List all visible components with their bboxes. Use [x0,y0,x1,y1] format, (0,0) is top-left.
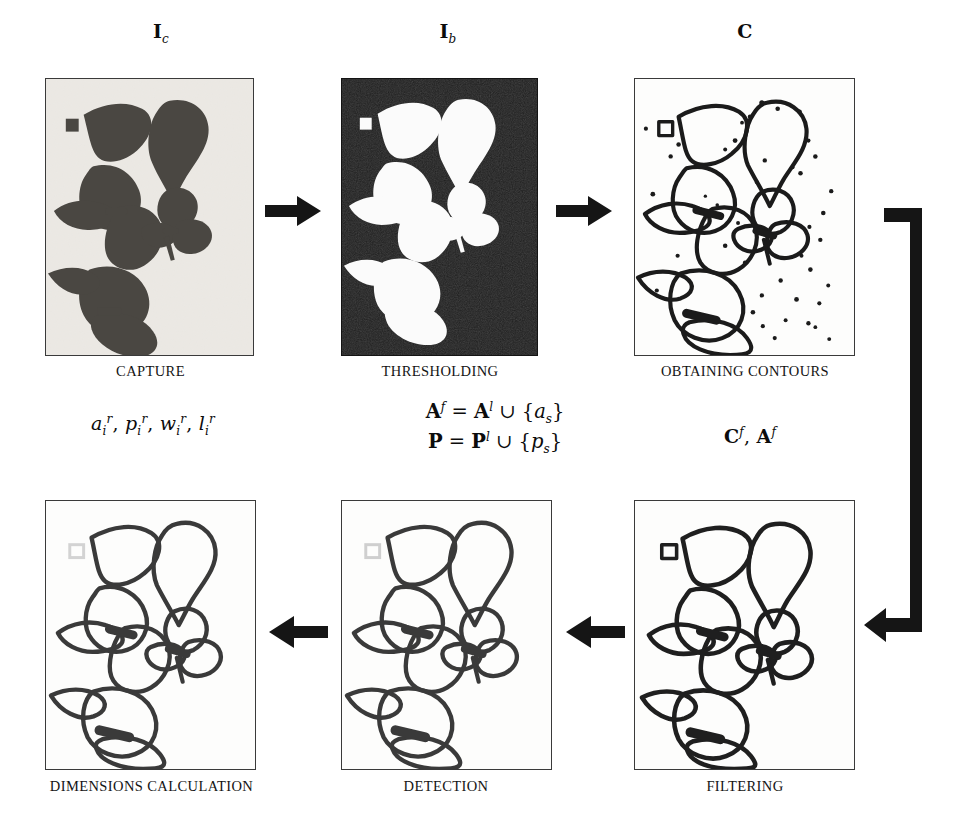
caption-thresholding: THRESHOLDING [330,363,550,380]
caption-filtering: FILTERING [634,778,856,795]
equation-perimeter: P = Pl ∪ {ps} [345,428,645,458]
arrow-filtering-to-detection [563,612,627,652]
caption-capture: CAPTURE [48,363,253,380]
symbol-contours: C [652,20,838,46]
panel-dimensions-calculation [45,500,256,770]
arrow-detection-to-dimensions [266,612,330,652]
caption-detection: DETECTION [336,778,556,795]
symbol-capture: Ic [68,20,254,46]
detection-image [342,501,551,769]
dimensions-symbols-text: air, pir, wir, lir [91,412,215,434]
panel-capture [45,78,254,356]
symbol-capture-main: I [153,20,162,42]
symbol-thresholding: Ib [355,20,541,46]
panel-obtaining-contours [634,78,855,356]
equation-area: Af = Al ∪ {as} [345,398,645,428]
symbol-contours-main: C [737,20,752,42]
filtering-symbols-text: Cf, Af [724,425,776,447]
dimensions-image [46,501,255,769]
symbol-thresholding-main: I [440,20,449,42]
arrow-contours-to-filtering [862,205,960,645]
arrow-threshold-to-contours [554,192,616,230]
capture-image [46,79,253,355]
panel-filtering [634,500,855,770]
contours-noisy-image [635,79,854,355]
panel-detection [341,500,552,770]
panel-thresholding [341,78,538,356]
label-filtering-symbols: Cf, Af [645,425,855,447]
symbol-thresholding-sub: b [449,32,457,46]
symbol-capture-sub: c [162,32,169,46]
thresholding-image [342,79,537,355]
filtering-image [635,501,854,769]
label-dimensions-symbols: air, pir, wir, lir [48,412,258,438]
arrow-capture-to-threshold [263,192,325,230]
caption-dimensions-calculation: DIMENSIONS CALCULATION [24,778,279,795]
caption-obtaining-contours: OBTAINING CONTOURS [634,363,856,380]
pipeline-figure: Ic Ib C [0,0,960,831]
equation-block: Af = Al ∪ {as} P = Pl ∪ {ps} [345,398,645,459]
